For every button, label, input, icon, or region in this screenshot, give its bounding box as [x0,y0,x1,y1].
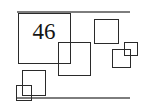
right-small-square [112,49,131,68]
squares-figure: 46 [0,0,146,111]
bottom-left-tiny-square [16,85,32,101]
top-right-square [94,19,119,44]
bottom-rule [17,97,130,99]
middle-overlap-square [58,42,91,76]
square-area-label: 46 [27,20,61,43]
